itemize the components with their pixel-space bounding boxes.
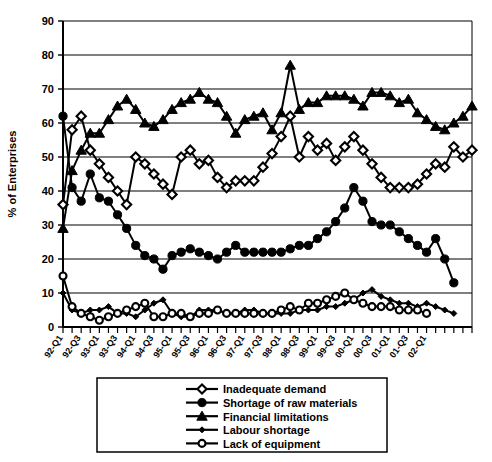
data-marker <box>387 303 394 310</box>
y-tick-label: 30 <box>42 219 54 231</box>
data-marker <box>241 248 249 256</box>
data-marker <box>278 307 285 314</box>
data-marker <box>232 310 239 317</box>
data-marker <box>341 204 349 212</box>
data-marker <box>104 197 112 205</box>
data-marker <box>223 248 231 256</box>
data-marker <box>441 255 449 263</box>
x-tick-labels: 92-Q192-Q393-Q193-Q394-Q194-Q395-Q195-Q3… <box>42 333 428 359</box>
data-marker <box>323 296 330 303</box>
data-marker <box>78 310 85 317</box>
data-marker <box>286 112 295 121</box>
data-marker <box>268 248 276 256</box>
series-line <box>63 116 454 283</box>
data-marker <box>286 245 294 253</box>
data-marker <box>59 112 67 120</box>
y-tick-label: 90 <box>42 15 54 27</box>
data-marker <box>258 108 268 117</box>
data-marker <box>103 115 113 124</box>
data-marker <box>285 60 295 69</box>
chart-legend: Inadequate demandShortage of raw materia… <box>97 378 387 452</box>
data-marker <box>432 235 440 243</box>
data-marker <box>87 313 94 320</box>
y-tick-label: 50 <box>42 151 54 163</box>
data-marker <box>387 297 393 303</box>
data-marker <box>324 304 330 310</box>
data-marker <box>359 197 367 205</box>
data-marker <box>296 307 303 314</box>
data-marker <box>132 241 140 249</box>
data-marker <box>177 248 185 256</box>
data-marker <box>241 310 248 317</box>
y-axis-label: % of Enterprises <box>6 131 18 218</box>
data-marker <box>123 224 131 232</box>
data-marker <box>114 310 121 317</box>
series-lack-of-equipment <box>60 273 431 324</box>
data-marker <box>295 241 303 249</box>
data-marker <box>141 300 148 307</box>
data-marker <box>178 310 185 317</box>
data-marker <box>113 211 121 219</box>
data-marker <box>159 265 167 273</box>
data-marker <box>186 245 194 253</box>
data-marker <box>314 307 320 313</box>
data-marker <box>396 300 402 306</box>
series-inadequate-demand <box>58 112 476 210</box>
data-marker <box>333 304 339 310</box>
data-marker <box>159 313 166 320</box>
data-marker <box>424 300 430 306</box>
data-marker <box>403 94 413 103</box>
data-marker <box>259 310 266 317</box>
data-marker <box>250 310 257 317</box>
data-marker <box>213 255 221 263</box>
data-marker <box>69 303 76 310</box>
data-marker <box>422 248 430 256</box>
data-marker <box>198 399 206 407</box>
data-marker <box>405 307 412 314</box>
data-marker <box>451 310 457 316</box>
data-marker <box>342 300 348 306</box>
data-marker <box>150 255 158 263</box>
data-marker <box>87 307 93 313</box>
data-marker <box>433 304 439 310</box>
data-marker <box>276 108 286 117</box>
data-marker <box>96 317 103 324</box>
data-marker <box>214 307 221 314</box>
legend-label: Financial limitations <box>223 411 329 423</box>
data-marker <box>232 241 240 249</box>
data-marker <box>413 241 421 249</box>
data-marker <box>287 303 294 310</box>
data-marker <box>259 248 267 256</box>
y-tick-label: 20 <box>42 253 54 265</box>
data-marker <box>168 252 176 260</box>
data-marker <box>250 248 258 256</box>
data-marker <box>141 252 149 260</box>
legend-label: Shortage of raw materials <box>223 397 358 409</box>
data-marker <box>412 108 422 117</box>
data-marker <box>277 132 286 141</box>
y-tick-label: 80 <box>42 49 54 61</box>
data-marker <box>404 235 412 243</box>
data-marker <box>467 101 477 110</box>
data-marker <box>169 310 176 317</box>
data-marker <box>95 194 103 202</box>
data-marker <box>132 303 139 310</box>
data-marker <box>123 307 130 314</box>
y-tick-label: 60 <box>42 117 54 129</box>
chart-page: 010203040506070809092-Q192-Q393-Q193-Q39… <box>0 0 492 462</box>
y-tick-label: 0 <box>48 321 54 333</box>
data-marker <box>314 300 321 307</box>
data-marker <box>359 300 366 307</box>
data-marker <box>187 313 194 320</box>
data-marker <box>304 241 312 249</box>
data-marker <box>386 221 394 229</box>
data-marker <box>105 313 112 320</box>
data-marker <box>423 310 430 317</box>
data-marker <box>395 228 403 236</box>
x-tick-label: 02-Q1 <box>406 333 429 359</box>
data-marker <box>60 273 67 280</box>
data-marker <box>277 248 285 256</box>
data-marker <box>204 252 212 260</box>
data-marker <box>269 310 276 317</box>
data-marker <box>332 218 340 226</box>
